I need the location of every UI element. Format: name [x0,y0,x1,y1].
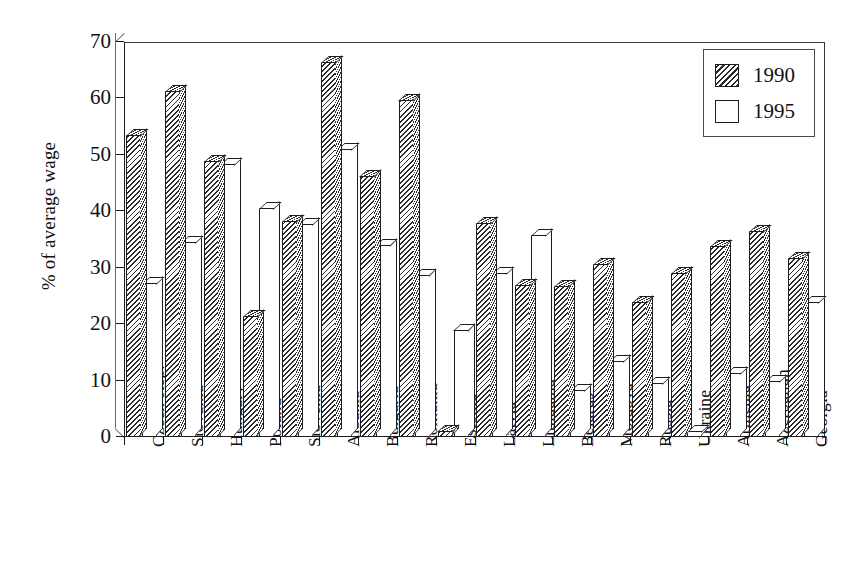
y-tick-70: 70 [116,41,124,42]
y-tick-label-70: 70 [90,28,111,54]
bar-side-face [156,276,163,436]
bar-group [202,42,241,437]
bar-1990 [788,258,803,437]
bar-side-face [662,377,669,436]
bar-side-face [545,228,552,436]
bar-1990 [671,273,686,437]
bar-side-face [802,251,809,436]
bar-side-face [763,224,770,436]
bar-side-face [584,383,591,436]
y-tick-label-10: 10 [90,367,111,393]
bar-group [241,42,280,437]
bar-side-face [374,169,381,436]
bar-group [436,42,475,437]
bar-side-face [390,238,397,436]
bar-side-face [273,202,280,436]
bar-side-face [195,236,202,436]
bar-side-face [468,323,475,436]
bar-side-face [568,279,575,436]
y-tick-label-30: 30 [90,254,111,280]
bar-1990 [399,100,414,437]
bar-side-face [740,366,747,436]
bar-side-face [296,215,303,436]
bar-1990 [243,316,258,437]
bar-side-face [179,84,186,436]
back-wall-left-edge [115,33,116,428]
bar-group [475,42,514,437]
bar-side-face [529,278,536,436]
bar-1990 [554,286,569,437]
bar-group [163,42,202,437]
bar-side-face [312,217,319,436]
y-tick-20: 20 [116,323,124,324]
x-tick-0 [124,437,125,445]
y-tick-10: 10 [116,380,124,381]
legend-swatch-1990 [715,64,739,87]
bar-1995 [687,431,702,437]
bar-side-face [140,128,147,436]
y-tick-30: 30 [116,267,124,268]
bar-group [552,42,591,437]
bar-side-face [490,216,497,436]
bar-side-face [724,240,731,436]
bar-group [630,42,669,437]
bar-side-face [413,93,420,436]
bar-1990 [165,91,180,437]
bar-side-face [779,374,786,436]
bar-side-face [607,257,614,436]
bar-group [280,42,319,437]
bar-1990 [710,246,725,437]
y-tick-label-40: 40 [90,197,111,223]
bar-side-face [685,267,692,436]
bar-1990 [593,264,608,437]
bar-1995 [454,330,469,437]
y-tick-60: 60 [116,97,124,98]
bar-side-face [218,154,225,436]
legend-label-1995: 1995 [753,97,795,125]
bar-side-face [257,309,264,436]
bar-1990 [476,223,491,437]
bar-1990 [632,302,647,437]
bar-group [513,42,552,437]
legend-swatch-1995 [715,100,739,123]
bar-1990 [126,135,141,437]
bar-side-face [506,267,513,436]
bar-side-face [429,268,436,436]
bar-1990 [438,431,453,437]
bar-1990 [749,231,764,437]
bar-side-face [646,295,653,436]
y-tick-label-20: 20 [90,310,111,336]
y-tick-label-60: 60 [90,84,111,110]
y-tick-0: 0 [116,436,124,437]
y-tick-50: 50 [116,154,124,155]
bar-group [124,42,163,437]
bar-group [358,42,397,437]
y-tick-40: 40 [116,210,124,211]
bar-1990 [321,62,336,437]
bar-1990 [515,285,530,437]
bar-group [397,42,436,437]
bar-1990 [282,221,297,437]
y-axis-title: % of average wage [38,106,60,326]
bar-chart-figure: % of average wage 010203040506070 Czech … [0,0,862,581]
bar-side-face [351,142,358,436]
legend: 1990 1995 [703,49,815,137]
bar-side-face [234,158,241,436]
bar-group [319,42,358,437]
bar-side-face [335,55,342,436]
y-tick-label-0: 0 [101,423,112,449]
bar-side-face [818,295,825,436]
bar-1990 [360,176,375,437]
bar-1990 [204,161,219,438]
y-tick-label-50: 50 [90,141,111,167]
bar-group [591,42,630,437]
legend-label-1990: 1990 [753,61,795,89]
bar-side-face [623,354,630,436]
